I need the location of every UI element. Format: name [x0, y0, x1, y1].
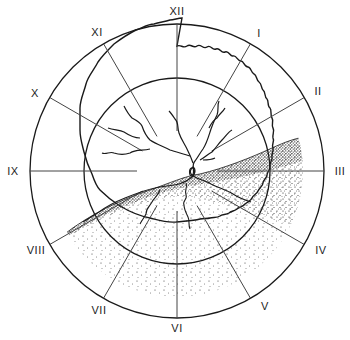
clock-label-viii: VIII: [27, 244, 46, 256]
stippled-region: [60, 137, 310, 330]
crack-network-upper: [102, 101, 232, 175]
radial-lines: [30, 24, 324, 318]
clock-label-iii: III: [335, 165, 346, 177]
clock-label-vi: VI: [171, 322, 182, 334]
clock-label-i: I: [257, 27, 261, 39]
clock-face-crack-diagram: [0, 0, 350, 340]
clock-label-iv: IV: [315, 244, 326, 256]
clock-label-vii: VII: [92, 304, 107, 316]
clock-label-v: V: [261, 300, 269, 312]
clock-label-xii: XII: [170, 5, 185, 17]
clock-label-xi: XI: [91, 26, 102, 38]
clock-label-x: X: [31, 87, 39, 99]
clock-label-ix: IX: [7, 165, 18, 177]
clock-label-ii: II: [314, 85, 321, 97]
